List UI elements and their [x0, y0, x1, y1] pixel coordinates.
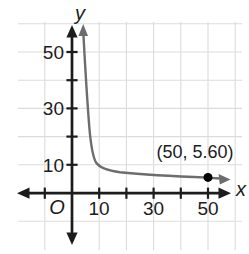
y-axis-up-arrow-icon	[66, 25, 77, 38]
x-axis-left-arrow-icon	[17, 188, 30, 199]
graph-canvas: y x O 50 30 10 10 30 50 (50, 5.60)	[0, 0, 249, 254]
origin-label: O	[49, 196, 65, 218]
y-axis	[66, 25, 77, 245]
x-tick-label-30: 30	[143, 198, 164, 219]
inverse-variation-graph: y x O 50 30 10 10 30 50 (50, 5.60)	[0, 0, 249, 254]
x-tick-label-50: 50	[197, 198, 218, 219]
y-axis-down-arrow-icon	[66, 233, 77, 246]
y-tick-label-10: 10	[43, 155, 64, 176]
x-tick-label-10: 10	[88, 198, 109, 219]
y-axis-label: y	[73, 2, 86, 24]
curve-up-arrow-icon	[78, 24, 88, 36]
x-axis-right-arrow-icon	[219, 188, 232, 199]
x-axis-label: x	[235, 178, 247, 200]
y-tick-label-50: 50	[43, 42, 64, 63]
data-point	[204, 173, 213, 182]
curve-right-arrow-icon	[219, 174, 231, 184]
y-tick-label-30: 30	[43, 98, 64, 119]
point-annotation: (50, 5.60)	[156, 142, 233, 162]
